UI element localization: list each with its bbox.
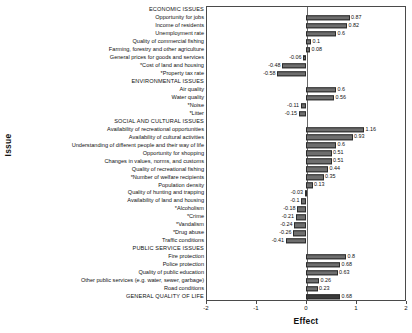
chart-row: Income of residents0.82 [0,22,412,30]
bar-value-label: 0.6 [338,87,346,92]
bar [306,151,332,156]
chart-row: *Noise-0.11 [0,102,412,110]
bar [306,159,332,164]
bar-area: 0.35 [206,173,406,181]
bar-value-label: 0.26 [321,278,332,283]
bar-value-label: -0.26 [279,230,291,235]
chart-row: Unemployment rate0.6 [0,30,412,38]
x-axis-tick [406,301,407,304]
chart-row: Water quality0.56 [0,94,412,102]
x-axis-tick-label: -2 [203,305,208,311]
bar [297,207,306,212]
chart-row: Air quality0.6 [0,86,412,94]
bar-value-label: 0.68 [342,294,353,299]
chart-row: Fire protection0.8 [0,253,412,261]
chart-row: *Cost of land and housing-0.48 [0,62,412,70]
bar-area: 0.68 [206,293,406,301]
chart-row: Availability of recreational opportuniti… [0,126,412,134]
bar-area: 0.8 [206,253,406,261]
bar-value-label: 0.68 [342,262,353,267]
chart-row: *Property tax rate-0.58 [0,70,412,78]
chart-row: *Drug abuse-0.26 [0,229,412,237]
bar [296,214,307,219]
category-label: Understanding of different people and th… [0,143,204,149]
bar [306,262,340,267]
bar-area: -0.24 [206,221,406,229]
chart-row: PUBLIC SERVICE ISSUES [0,245,412,253]
chart-row: *Litter-0.15 [0,110,412,118]
x-axis-tick-label: 1 [354,305,357,311]
x-axis-tick-label: 2 [404,305,407,311]
bar-value-label: -0.41 [272,238,284,243]
chart-row: Population density0.13 [0,181,412,189]
category-label: Fire protection [0,254,204,260]
bar-value-label: 1.16 [366,127,377,132]
bar [282,63,306,68]
bar [306,95,334,100]
chart-row: *Vandalism-0.24 [0,221,412,229]
bar-area: -0.11 [206,102,406,110]
bar-area: 0.6 [206,141,406,149]
bar [306,278,319,283]
bar-area: -0.41 [206,237,406,245]
bar-area: 0.87 [206,14,406,22]
chart-row: Quality of recreational fishing0.44 [0,165,412,173]
bar-area: 0.1 [206,38,406,46]
bar-value-label: -0.15 [285,111,297,116]
bar-value-label: -0.58 [263,71,275,76]
category-label: Traffic conditions [0,238,204,244]
bar-value-label: -0.1 [290,199,299,204]
bar [306,286,318,291]
bar-area: 0.63 [206,269,406,277]
bar-area [206,245,406,253]
x-axis-tick [256,301,257,304]
bar-area: 0.26 [206,277,406,285]
category-label: Changes in values, norms, and customs [0,159,204,165]
bar [306,183,313,188]
chart-row: Changes in values, norms, and customs0.5… [0,157,412,165]
bar-area [206,78,406,86]
bar-area: 0.68 [206,261,406,269]
category-label: SOCIAL AND CULTURAL ISSUES [0,119,204,125]
chart-row: Availability of land and housing-0.1 [0,197,412,205]
bar-area: -0.58 [206,70,406,78]
bar-value-label: 0.44 [330,167,341,172]
bar-value-label: 0.8 [348,254,356,259]
bar-value-label: 0.87 [351,15,362,20]
bar-area: 0.56 [206,94,406,102]
bar-area: -0.06 [206,54,406,62]
bar-area: 0.51 [206,149,406,157]
bar-area: 0.6 [206,86,406,94]
bar [306,47,310,52]
bar [306,39,311,44]
bar [306,167,328,172]
bar-value-label: -0.48 [268,63,280,68]
bar-area [206,6,406,14]
x-axis-title: Effect [206,316,406,326]
bar [301,103,307,108]
x-axis-tick [206,301,207,304]
bar [293,230,306,235]
chart-row: GENERAL QUALITY OF LIFE0.68 [0,293,412,301]
chart-row: *Crime-0.21 [0,213,412,221]
bar-value-label: 0.23 [319,286,330,291]
category-label: *Property tax rate [0,71,204,77]
bar [305,191,307,196]
category-label: Quality of commercial fishing [0,39,204,45]
bar [306,135,353,140]
chart-row: *Number of welfare recipients0.35 [0,173,412,181]
chart-row: Quality of hunting and trapping-0.03 [0,189,412,197]
bar-value-label: -0.03 [291,191,303,196]
bar-value-label: 0.6 [338,31,346,36]
bar-area: -0.1 [206,197,406,205]
bar-area: -0.03 [206,189,406,197]
category-label: Availability of land and housing [0,198,204,204]
x-axis-tick [306,301,307,304]
category-label: *Cost of land and housing [0,63,204,69]
chart-row: General prices for goods and services-0.… [0,54,412,62]
bar-area: 0.93 [206,134,406,142]
effect-bar-chart: Issue ECONOMIC ISSUESOpportunity for job… [0,0,412,333]
bar-value-label: 0.56 [336,95,347,100]
bar-area: -0.48 [206,62,406,70]
x-axis-tick-label: 0 [304,305,307,311]
